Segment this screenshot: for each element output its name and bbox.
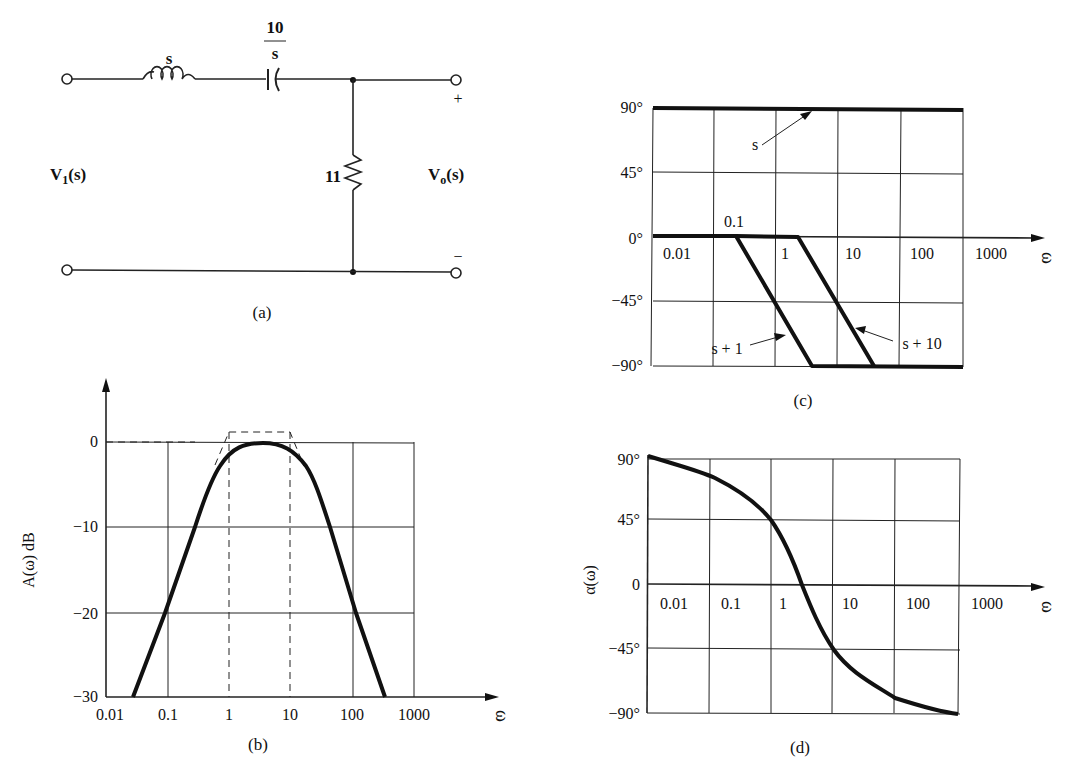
y-axis-d [647,455,648,713]
svg-text:0.1: 0.1 [158,706,178,723]
grid-b [106,442,414,697]
annotation-s: s [752,136,758,153]
svg-text:0.01: 0.01 [96,706,124,723]
y-axis-label-b: A(ω) dB [20,532,38,587]
svg-text:0.1: 0.1 [724,213,744,230]
inductor-icon [143,67,195,79]
resistor-icon [345,155,361,190]
figure-canvas: s 10 s 11 V1(s) Vo(s) + − (a) [0,0,1065,782]
svg-text:10: 10 [842,595,858,612]
inductor-label: s [166,49,173,68]
svg-text:1: 1 [779,595,787,612]
arrow-up-icon [102,378,110,392]
svg-text:10: 10 [282,706,298,723]
arrow-right-icon [1031,234,1045,242]
svg-text:1: 1 [781,245,789,262]
output-voltage-label: Vo(s) [428,165,464,187]
caption-b: (b) [248,735,268,754]
svg-text:90°: 90° [618,451,640,468]
output-terminal-bottom [451,268,461,278]
svg-text:100: 100 [910,245,934,262]
svg-text:45°: 45° [621,164,643,181]
input-terminal-bottom [62,265,72,275]
resistor-label: 11 [325,167,341,186]
x-axis-d [648,584,1035,586]
annotation-s-plus-10: s + 10 [902,335,941,352]
svg-text:45°: 45° [618,511,640,528]
caption-c: (c) [794,391,813,410]
svg-text:0: 0 [90,433,98,450]
arrow-right-icon [1031,583,1045,591]
plus-sign: + [453,90,462,107]
svg-text:0.01: 0.01 [663,245,691,262]
caption-d: (d) [790,738,810,757]
svg-text:−45°: −45° [612,292,643,309]
arrow-right-icon [485,693,499,701]
svg-text:−20: −20 [73,605,98,622]
minus-sign: − [453,248,462,265]
svg-text:90°: 90° [621,99,643,116]
circuit-diagram: s 10 s 11 V1(s) Vo(s) + − (a) [50,18,464,322]
output-terminal-top [451,75,461,85]
svg-text:−90°: −90° [609,705,640,722]
capacitor-label-numerator: 10 [267,18,284,37]
y-axis-label-d: α(ω) [581,565,599,595]
magnitude-curve [133,443,385,697]
magnitude-plot: 0 −10 −20 −30 0.01 0.1 1 10 100 1000 ω A… [20,378,512,754]
caption-a: (a) [253,303,272,322]
series-s [653,108,963,110]
x-axis-label-c: ω [1038,252,1058,264]
svg-text:−30: −30 [73,688,98,705]
total-phase-plot: 90° 45° 0 −45° −90° 0.01 0.1 1 10 100 10… [581,451,1058,757]
svg-text:1000: 1000 [398,706,430,723]
svg-text:0.1: 0.1 [721,595,741,612]
svg-text:0: 0 [632,576,640,593]
svg-text:−45°: −45° [609,640,640,657]
svg-text:1000: 1000 [975,245,1007,262]
svg-text:0°: 0° [629,230,643,247]
factor-phase-plot: s s + 1 s + 10 90° 45° 0° −45° −90° 0.1 … [612,99,1058,410]
svg-text:100: 100 [340,706,364,723]
capacitor-label-denominator: s [272,44,279,63]
svg-text:1: 1 [225,706,233,723]
x-axis-label-d: ω [1038,601,1058,613]
x-axis-label-b: ω [492,710,512,722]
annotation-s-plus-1: s + 1 [711,340,742,357]
svg-text:10: 10 [845,245,861,262]
svg-text:100: 100 [906,595,930,612]
svg-text:−10: −10 [73,518,98,535]
svg-text:1000: 1000 [971,595,1003,612]
svg-text:0.01: 0.01 [660,595,688,612]
input-voltage-label: V1(s) [50,165,86,187]
svg-text:−90°: −90° [612,357,643,374]
input-terminal-top [62,74,72,84]
